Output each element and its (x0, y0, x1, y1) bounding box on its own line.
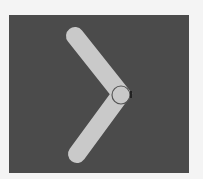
icon-panel (9, 15, 189, 173)
chevron-right-icon (9, 15, 189, 173)
vertex-marker (130, 91, 132, 98)
